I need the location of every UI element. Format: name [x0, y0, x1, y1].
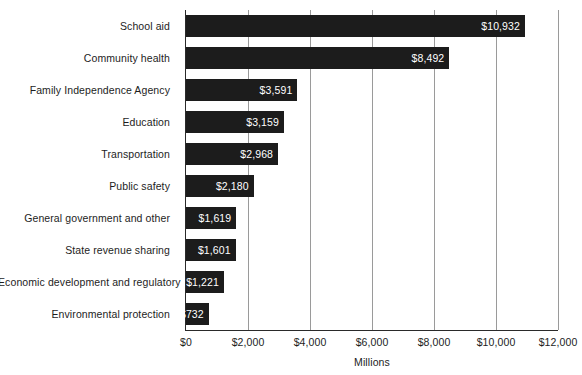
bar-value-label: $2,968 [240, 143, 273, 165]
x-tick-label: $4,000 [294, 336, 327, 349]
bar-value-label: $1,221 [186, 271, 219, 293]
category-label: Transportation [0, 148, 170, 160]
bar-value-label: $732 [180, 303, 204, 325]
category-label: Environmental protection [0, 308, 170, 320]
category-label: Education [0, 116, 170, 128]
x-tick-label: $2,000 [232, 336, 265, 349]
category-label: School aid [0, 20, 170, 32]
bar-value-label: $2,180 [216, 175, 249, 197]
bar-row: $732 [186, 303, 558, 325]
x-tick-label: $10,000 [477, 336, 516, 349]
x-tick-label: $12,000 [539, 336, 578, 349]
bar-row: $10,932 [186, 15, 558, 37]
x-axis-title: Millions [186, 356, 558, 369]
bar-value-label: $8,492 [412, 47, 445, 69]
bar-value-label: $10,932 [481, 15, 520, 37]
bar-row: $1,619 [186, 207, 558, 229]
bar-row: $3,159 [186, 111, 558, 133]
x-tick-label: $8,000 [418, 336, 451, 349]
category-label: General government and other [0, 212, 170, 224]
bar-value-label: $1,601 [198, 239, 231, 261]
category-label: Economic development and regulatory [0, 276, 170, 288]
gridline [558, 10, 559, 330]
bar-value-label: $3,591 [260, 79, 293, 101]
bar-row: $1,221 [186, 271, 558, 293]
bar-row: $3,591 [186, 79, 558, 101]
bar-row: $8,492 [186, 47, 558, 69]
bar-value-label: $3,159 [246, 111, 279, 133]
category-label: Family Independence Agency [0, 84, 170, 96]
bar [186, 15, 525, 37]
x-tick-label: $6,000 [356, 336, 389, 349]
category-axis-labels: School aidCommunity healthFamily Indepen… [0, 10, 178, 330]
x-axis-tick-labels: $0$2,000$4,000$6,000$8,000$10,000$12,000 [186, 336, 558, 352]
plot-area: $10,932$8,492$3,591$3,159$2,968$2,180$1,… [186, 10, 558, 330]
bar-row: $1,601 [186, 239, 558, 261]
bar-value-label: $1,619 [198, 207, 231, 229]
bar-chart: School aidCommunity healthFamily Indepen… [0, 0, 582, 375]
x-tick-label: $0 [180, 336, 192, 349]
category-label: Public safety [0, 180, 170, 192]
bar-row: $2,180 [186, 175, 558, 197]
bar-row: $2,968 [186, 143, 558, 165]
category-label: State revenue sharing [0, 244, 170, 256]
x-axis-line [185, 330, 558, 331]
bar [186, 47, 449, 69]
category-label: Community health [0, 52, 170, 64]
